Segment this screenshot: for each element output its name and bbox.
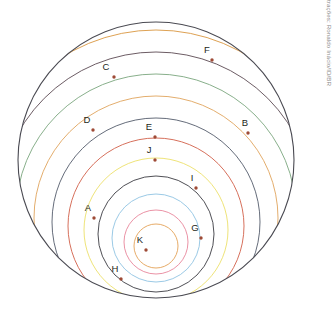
point-dot-F <box>210 58 213 61</box>
point-dot-H <box>119 277 122 280</box>
point-label-E: E <box>146 121 152 132</box>
arc-yellow <box>84 158 228 302</box>
point-label-H: H <box>112 263 119 274</box>
point-dot-B <box>246 131 249 134</box>
arc-red-salmon <box>68 138 244 314</box>
point-dot-C <box>112 75 115 78</box>
point-label-I: I <box>191 172 194 183</box>
point-dot-J <box>153 158 156 161</box>
point-label-A: A <box>85 202 92 213</box>
arc-green <box>16 74 296 316</box>
arc-pink <box>124 210 188 274</box>
point-label-J: J <box>147 144 152 155</box>
point-dot-G <box>199 236 202 239</box>
point-dot-D <box>91 128 94 131</box>
point-label-D: D <box>84 114 91 125</box>
point-group: ABCDEFGHIJK <box>84 44 250 281</box>
point-label-F: F <box>204 44 210 55</box>
arc-light-blue <box>112 194 200 282</box>
point-label-G: G <box>191 222 198 233</box>
arc-plum-dark <box>0 52 314 316</box>
point-dot-K <box>144 248 147 251</box>
arc-charcoal <box>98 176 214 292</box>
point-dot-E <box>153 135 156 138</box>
arc-slate-blue <box>52 118 260 316</box>
point-dot-A <box>92 216 95 219</box>
credit-text: Ilustrações: Ronaldo Inácio/ID/BR <box>323 0 335 100</box>
point-label-K: K <box>137 234 144 245</box>
point-dot-I <box>194 186 197 189</box>
point-label-C: C <box>103 61 110 72</box>
arc-orange-bottom <box>134 224 178 268</box>
point-label-B: B <box>242 117 248 128</box>
